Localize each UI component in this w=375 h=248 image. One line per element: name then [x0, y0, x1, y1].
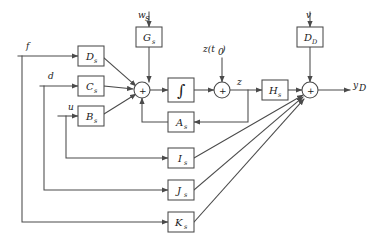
summing-junction-state[interactable]: + [134, 82, 150, 98]
block-Ds[interactable]: D s [78, 46, 104, 66]
block-Gs[interactable]: G s [136, 27, 162, 47]
block-DD-sub: D [311, 38, 318, 46]
block-Bs-label: B [85, 111, 93, 122]
signal-label-yD-base: y [352, 80, 359, 90]
signal-label-z: z [236, 77, 242, 87]
block-Hs[interactable]: H s [262, 80, 288, 100]
block-Ks[interactable]: K s [168, 212, 194, 232]
signal-label-ws-sub: s [145, 13, 150, 23]
signal-label-ws: w s [138, 10, 150, 23]
summing-junction-output-sign: + [307, 86, 315, 96]
wire-Bs-to-sum [104, 94, 136, 114]
block-DD-label: D [303, 32, 312, 43]
wire-Cs-to-sum [104, 86, 133, 89]
block-Hs-label: H [268, 85, 278, 96]
wire-d-bus-to-Js [44, 86, 168, 190]
integrator-icon: ∫ [177, 81, 185, 100]
signal-label-z-t0: z(t 0 ) [202, 44, 226, 57]
wire-Ks-to-sumout [194, 99, 304, 222]
block-Bs[interactable]: B s [78, 106, 104, 126]
diagram-canvas: D s C s B s G s A s I s J s K s H s [0, 0, 375, 248]
wire-As-to-sum [142, 98, 168, 122]
block-integrator[interactable]: ∫ [168, 78, 194, 102]
block-As-label: A [175, 117, 183, 128]
signal-label-zt0-base: z(t [202, 44, 215, 54]
summing-junction-output[interactable]: + [302, 82, 318, 98]
block-Ds-label: D [85, 51, 94, 62]
block-As[interactable]: A s [168, 112, 194, 132]
block-Ks-label: K [174, 217, 183, 228]
block-DD[interactable]: D D [297, 27, 323, 47]
block-Cs[interactable]: C s [78, 76, 104, 96]
signal-label-yD: y D [352, 80, 366, 93]
signal-label-u: u [68, 102, 74, 112]
signal-label-f: f [25, 41, 31, 51]
block-Cs-label: C [86, 81, 94, 92]
summing-junction-z-sign: + [219, 86, 227, 96]
block-diagram: D s C s B s G s A s I s J s K s H s [0, 0, 375, 248]
summing-junction-state-sign: + [139, 86, 147, 96]
signal-label-zt0-tail: ) [221, 44, 226, 54]
signal-label-yD-sub: D [358, 83, 366, 93]
signal-label-d: d [48, 71, 54, 81]
block-Is[interactable]: I s [168, 148, 194, 168]
summing-junction-z[interactable]: + [214, 82, 230, 98]
block-Js-label: J [175, 185, 182, 196]
signal-label-v: v [306, 10, 311, 20]
block-Js[interactable]: J s [168, 180, 194, 200]
block-Gs-label: G [143, 32, 151, 43]
wire-Ds-to-sum [104, 58, 136, 86]
